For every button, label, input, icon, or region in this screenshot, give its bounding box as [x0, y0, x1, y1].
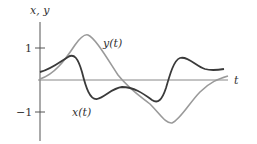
y-axis-label: x, y	[30, 4, 50, 17]
series-x-line	[40, 56, 224, 102]
series-y-label: y(t)	[102, 37, 122, 50]
chart: x, y t 1 −1 y(t) x(t)	[0, 0, 257, 144]
x-axis-label: t	[234, 74, 239, 87]
series-y-line	[40, 35, 228, 123]
series-x-label: x(t)	[72, 106, 91, 119]
tick-label-1: 1	[25, 42, 32, 55]
tick-label-neg1: −1	[16, 106, 32, 119]
